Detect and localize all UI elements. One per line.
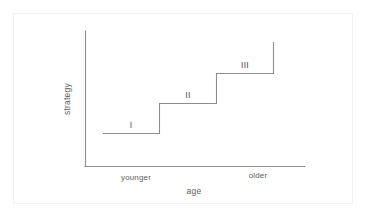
step-label-i: I	[130, 120, 133, 130]
x-tick-label-older: older	[249, 171, 268, 180]
x-tick-label-younger: younger	[121, 173, 151, 182]
figure-root: I II III younger older age strategy	[0, 0, 370, 216]
step-chart-plot: I II III younger older age strategy	[0, 0, 370, 216]
strategy-step-curve	[103, 42, 274, 134]
y-axis-title: strategy	[62, 83, 72, 115]
step-label-iii: III	[241, 60, 249, 70]
x-axis-title: age	[187, 186, 202, 196]
step-label-ii: II	[185, 90, 190, 100]
